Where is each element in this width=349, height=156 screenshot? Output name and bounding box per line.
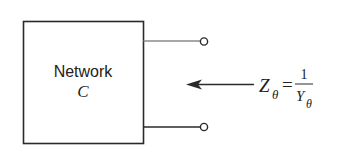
equals-sign: = — [282, 74, 293, 95]
fraction-numerator: 1 — [301, 67, 308, 82]
z-symbol: Z — [259, 75, 270, 96]
network-name-c: C — [77, 82, 89, 101]
network-label: Network — [54, 63, 114, 80]
y-symbol: Y — [296, 88, 306, 104]
top-terminal-icon — [200, 38, 207, 45]
z-subscript: θ — [272, 87, 279, 102]
y-subscript: θ — [306, 97, 312, 111]
impedance-equation: Z θ = 1 Y θ — [259, 67, 313, 111]
bottom-terminal-icon — [200, 123, 207, 130]
network-diagram: Network C Z θ = 1 Y θ — [0, 0, 349, 156]
arrow-left-icon — [186, 80, 254, 90]
